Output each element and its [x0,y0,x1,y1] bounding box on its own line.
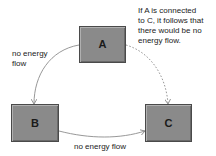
node-b: B [11,104,59,142]
node-b-label: B [31,118,39,129]
connector-b-c [59,131,145,137]
explanation-note: If A is connected to C, it follows that … [138,6,214,46]
node-c: C [145,104,192,142]
edge-label-a-b: no energy flow [12,49,62,69]
energy-flow-diagram: A B C If A is connected to C, it follows… [0,0,216,156]
node-a-label: A [99,39,107,50]
node-c-label: C [165,118,173,129]
connector-a-c-dashed [126,45,168,104]
node-a: A [79,26,126,63]
edge-label-b-c: no energy flow [74,142,154,152]
